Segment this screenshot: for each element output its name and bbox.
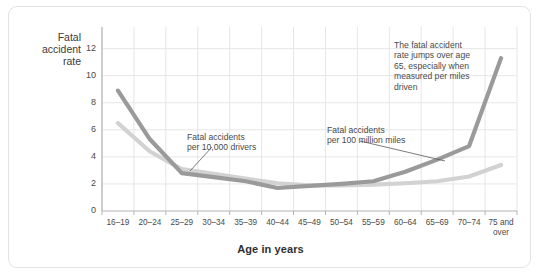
annotation-line: Fatal accidents <box>187 132 297 142</box>
annotation-line: driven <box>394 82 506 92</box>
y-axis-title-line-2: accident <box>23 43 81 55</box>
annotation-callout-note: The fatal accident rate jumps over age 6… <box>394 40 506 92</box>
y-tick-label: 8 <box>78 97 96 107</box>
y-axis-title: Fatal accident rate <box>23 31 81 68</box>
figure: Fatal accident rate 024681012 16–1920–24… <box>9 7 532 269</box>
y-tick-label: 0 <box>78 205 96 215</box>
y-tick-label: 12 <box>78 43 96 53</box>
annotation-line: The fatal accident <box>394 40 506 50</box>
y-tick-label: 6 <box>78 124 96 134</box>
chart-card: Fatal accident rate 024681012 16–1920–24… <box>8 6 531 268</box>
y-tick-label: 4 <box>78 151 96 161</box>
x-tick-label: 75 and over <box>481 218 521 238</box>
annotation-line: per 10,000 drivers <box>187 142 297 152</box>
annotation-line: 65, especially when <box>394 61 506 71</box>
y-axis-title-line-3: rate <box>23 55 81 67</box>
annotation-line: measured per miles <box>394 71 506 81</box>
annotation-line: per 100 million miles <box>327 135 445 145</box>
x-axis-title: Age in years <box>9 243 532 255</box>
y-tick-label: 2 <box>78 178 96 188</box>
annotation-per-100-million-miles: Fatal accidents per 100 million miles <box>327 125 445 146</box>
annotation-line: Fatal accidents <box>327 125 445 135</box>
annotation-per-10000-drivers: Fatal accidents per 10,000 drivers <box>187 132 297 153</box>
y-tick-label: 10 <box>78 70 96 80</box>
y-axis-title-line-1: Fatal <box>23 31 81 43</box>
annotation-line: rate jumps over age <box>394 50 506 60</box>
